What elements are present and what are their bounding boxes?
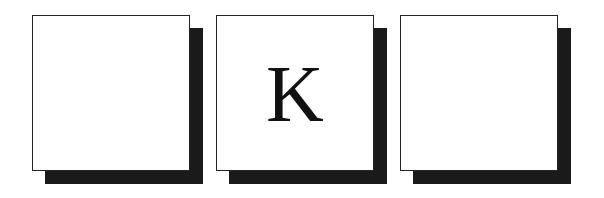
letter-tile-3[interactable] — [400, 15, 558, 171]
letter-tile-1[interactable] — [32, 15, 190, 171]
letter-tile-2[interactable]: K — [216, 15, 374, 171]
letter-tile-slot-1 — [32, 15, 190, 171]
letter-tile-slot-2: K — [216, 15, 374, 171]
tile-letter: K — [266, 54, 324, 134]
letter-tile-slot-3 — [400, 15, 558, 171]
